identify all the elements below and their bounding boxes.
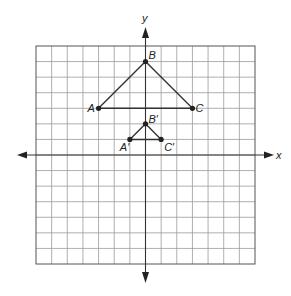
vertex-label: C bbox=[195, 102, 203, 114]
vertex-label: A bbox=[87, 102, 95, 114]
vertex-point bbox=[159, 137, 164, 142]
vertex-label: B bbox=[149, 49, 156, 61]
y-axis-label: y bbox=[141, 12, 149, 24]
vertex-point bbox=[96, 106, 101, 111]
y-axis-down-arrow-icon bbox=[142, 272, 149, 283]
triangle-abc-prime: A′B′C′ bbox=[119, 113, 175, 154]
vertex-point bbox=[190, 106, 195, 111]
coordinate-plane: x y ABCA′B′C′ bbox=[0, 0, 291, 296]
x-axis-right-arrow-icon bbox=[264, 152, 274, 159]
y-axis-up-arrow-icon bbox=[142, 27, 149, 38]
vertex-point bbox=[143, 121, 148, 126]
vertex-label: B′ bbox=[149, 113, 159, 125]
x-axis-left-arrow-icon bbox=[17, 152, 27, 159]
vertex-label: C′ bbox=[164, 141, 175, 153]
vertex-point bbox=[143, 59, 148, 64]
vertex-label: A′ bbox=[119, 141, 130, 153]
x-axis-label: x bbox=[275, 149, 282, 161]
